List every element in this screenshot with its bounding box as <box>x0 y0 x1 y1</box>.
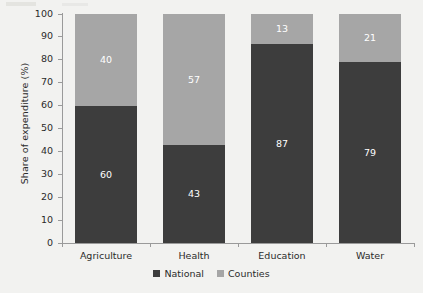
x-category-label: Water <box>315 250 423 261</box>
bar-value-label: 43 <box>188 189 200 199</box>
y-tick: 60 <box>0 105 62 106</box>
bar-segment[interactable]: 79 <box>339 62 401 243</box>
bar-segment[interactable]: 87 <box>251 44 313 243</box>
y-tick-label: 80 <box>27 54 53 64</box>
y-tick-label: 60 <box>27 100 53 110</box>
plot-area: 6040435787137921 <box>62 14 414 243</box>
bar-value-label: 60 <box>100 170 112 180</box>
bar-segment[interactable]: 57 <box>163 14 225 145</box>
y-tick-label: 100 <box>27 9 53 19</box>
y-tick: 90 <box>0 36 62 37</box>
x-tick-mark <box>238 243 239 247</box>
bar-group[interactable]: 7921 <box>339 14 401 243</box>
bar-value-label: 87 <box>276 139 288 149</box>
bar-segment[interactable]: 13 <box>251 14 313 44</box>
y-tick: 30 <box>0 174 62 175</box>
legend-swatch-icon <box>153 270 160 277</box>
x-tick-mark <box>62 243 63 247</box>
legend-label: National <box>164 269 204 279</box>
bar-value-label: 57 <box>188 75 200 85</box>
y-tick-label: 50 <box>27 123 53 133</box>
bar-group[interactable]: 6040 <box>75 14 137 243</box>
y-tick: 70 <box>0 82 62 83</box>
y-tick-label: 70 <box>27 77 53 87</box>
y-tick-label: 30 <box>27 169 53 179</box>
bar-value-label: 21 <box>364 33 376 43</box>
y-tick-label: 0 <box>27 238 53 248</box>
y-tick: 20 <box>0 197 62 198</box>
chart-legend: NationalCounties <box>0 269 423 279</box>
y-tick: 40 <box>0 151 62 152</box>
y-tick-label: 20 <box>27 192 53 202</box>
y-tick: 10 <box>0 220 62 221</box>
bar-value-label: 79 <box>364 148 376 158</box>
x-tick-mark <box>414 243 415 247</box>
bar-segment[interactable]: 40 <box>75 14 137 106</box>
x-tick-mark <box>326 243 327 247</box>
y-tick: 0 <box>0 243 62 244</box>
bar-segment[interactable]: 60 <box>75 106 137 243</box>
x-tick-mark <box>150 243 151 247</box>
bar-group[interactable]: 8713 <box>251 14 313 243</box>
bar-value-label: 13 <box>276 24 288 34</box>
stacked-bar-chart: Share of expenditure (%) 010203040506070… <box>0 0 423 293</box>
scan-artifact <box>62 3 88 6</box>
y-tick-label: 90 <box>27 31 53 41</box>
legend-item[interactable]: Counties <box>217 269 270 279</box>
legend-item[interactable]: National <box>153 269 204 279</box>
bar-segment[interactable]: 21 <box>339 14 401 62</box>
bar-segment[interactable]: 43 <box>163 145 225 243</box>
bar-group[interactable]: 4357 <box>163 14 225 243</box>
legend-swatch-icon <box>217 270 224 277</box>
bar-value-label: 40 <box>100 55 112 65</box>
y-tick-label: 40 <box>27 146 53 156</box>
legend-label: Counties <box>228 269 270 279</box>
y-tick: 50 <box>0 128 62 129</box>
y-tick: 100 <box>0 14 62 15</box>
scan-artifact <box>6 2 36 6</box>
y-tick-label: 10 <box>27 215 53 225</box>
y-tick: 80 <box>0 59 62 60</box>
